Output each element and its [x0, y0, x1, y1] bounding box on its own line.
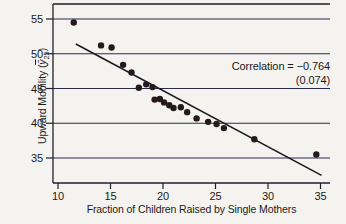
- y-axis-title-prefix: Upward Mobility (: [36, 65, 48, 144]
- data-point-15: [193, 115, 199, 121]
- data-point-4: [128, 69, 134, 75]
- data-point-17: [213, 121, 219, 127]
- x-tick-label-20: 20: [157, 190, 169, 202]
- data-point-1: [98, 42, 104, 48]
- x-tick-label-30: 30: [262, 190, 274, 202]
- data-point-6: [143, 81, 149, 87]
- data-point-12: [170, 105, 176, 111]
- correlation-annotation: Correlation = −0.764 (0.074): [232, 59, 330, 87]
- data-point-5: [136, 85, 142, 91]
- data-point-18: [221, 125, 227, 131]
- y-axis-title-suffix: ): [36, 48, 48, 51]
- data-point-3: [120, 62, 126, 68]
- data-point-7: [149, 84, 155, 90]
- correlation-value: Correlation = −0.764: [232, 59, 330, 73]
- y-axis-title: Upward Mobility (ȳ25): [36, 21, 52, 171]
- y-axis-variable: ȳ: [36, 60, 48, 65]
- data-point-2: [108, 44, 114, 50]
- scatter-figure: 3540455055101520253035 Upward Mobility (…: [0, 0, 346, 224]
- data-point-16: [205, 119, 211, 125]
- data-point-13: [178, 104, 184, 110]
- y-axis-variable-subscript: 25: [42, 51, 51, 59]
- data-point-20: [313, 151, 319, 157]
- data-point-19: [251, 136, 257, 142]
- x-axis-title: Fraction of Children Raised by Single Mo…: [53, 203, 330, 215]
- x-tick-label-15: 15: [104, 190, 116, 202]
- data-point-14: [184, 109, 190, 115]
- x-tick-label-35: 35: [314, 190, 326, 202]
- x-tick-label-10: 10: [52, 190, 64, 202]
- data-point-0: [71, 19, 77, 25]
- correlation-std-error: (0.074): [232, 73, 330, 87]
- x-tick-label-25: 25: [209, 190, 221, 202]
